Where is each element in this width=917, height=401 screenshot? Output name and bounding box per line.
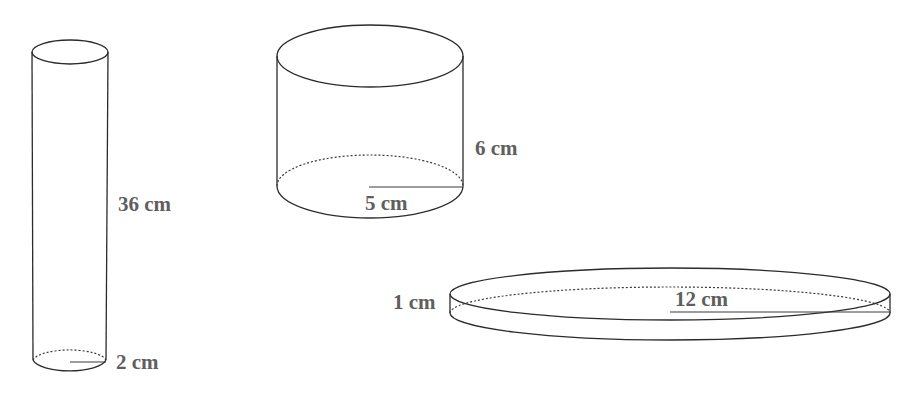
tall-cylinder: 36 cm 2 cm — [32, 40, 172, 374]
flat-cylinder-base-hidden-edge — [450, 287, 890, 313]
tall-cylinder-radius-label: 2 cm — [116, 350, 159, 374]
medium-cylinder-top-face — [277, 25, 463, 87]
flat-cylinder-base-front-edge — [450, 313, 890, 340]
tall-cylinder-left-side — [32, 52, 33, 360]
tall-cylinder-height-label: 36 cm — [118, 192, 172, 216]
medium-cylinder-base-hidden-edge — [277, 155, 463, 186]
flat-cylinder: 1 cm 12 cm — [393, 268, 890, 340]
flat-cylinder-radius-label: 12 cm — [675, 287, 729, 311]
medium-cylinder: 6 cm 5 cm — [277, 25, 518, 218]
tall-cylinder-base-hidden-edge — [33, 350, 106, 360]
medium-cylinder-radius-label: 5 cm — [365, 191, 408, 215]
tall-cylinder-right-side — [106, 52, 108, 360]
tall-cylinder-top-face — [32, 40, 108, 64]
medium-cylinder-height-label: 6 cm — [475, 136, 518, 160]
cylinders-diagram: 36 cm 2 cm 6 cm 5 cm 1 cm 12 cm — [0, 0, 917, 401]
flat-cylinder-height-label: 1 cm — [393, 290, 436, 314]
